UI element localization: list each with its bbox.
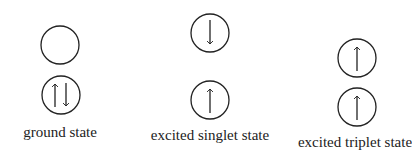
ground-lower-orbital (42, 76, 80, 114)
ground-state-group (41, 26, 80, 114)
excited-singlet-state-label: excited singlet state (151, 127, 269, 144)
excited-triplet-state-label: excited triplet state (298, 134, 412, 151)
triplet-state-group (338, 39, 376, 126)
ground-state-label: ground state (23, 124, 97, 141)
ground-upper-orbital-empty (41, 26, 79, 64)
singlet-state-group (191, 14, 229, 119)
